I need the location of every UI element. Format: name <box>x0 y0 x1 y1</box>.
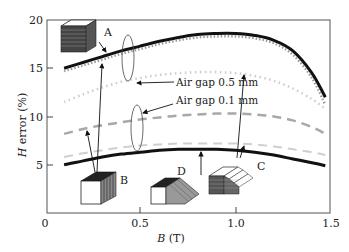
illustration-a <box>61 20 96 52</box>
y-ticks <box>47 68 53 165</box>
xtick-0.5: 0.5 <box>131 217 149 230</box>
ellipse-gap05 <box>122 35 134 81</box>
label-a: A <box>103 26 113 39</box>
xtick-1.0: 1.0 <box>227 217 245 230</box>
xtick-0: 0 <box>42 217 49 230</box>
x-axis-label: B (T) <box>156 232 185 245</box>
illustration-b <box>81 172 116 204</box>
xtick-1.5: 1.5 <box>322 217 340 230</box>
label-gap01: Air gap 0.1 mm <box>175 94 258 106</box>
ytick-10: 10 <box>29 111 43 124</box>
curve-air-gap-0-1-mm-dashed <box>64 113 325 133</box>
ytick-15: 15 <box>29 62 43 75</box>
chart-svg: 20 15 10 5 0 0.5 1.0 1.5 B (T) H error (… <box>0 0 349 252</box>
y-axis-label: H error (%) <box>16 93 29 159</box>
label-b: B <box>120 174 128 187</box>
illustration-c <box>209 167 253 194</box>
chart: 20 15 10 5 0 0.5 1.0 1.5 B (T) H error (… <box>0 0 349 252</box>
x-ticks <box>140 207 236 213</box>
ytick-5: 5 <box>36 159 43 172</box>
illustration-d <box>151 178 199 204</box>
label-c: C <box>257 160 265 173</box>
ytick-20: 20 <box>29 14 43 27</box>
curve-b-c-d-solid <box>64 149 325 165</box>
label-d: D <box>177 165 186 178</box>
ellipse-gap01 <box>131 105 143 151</box>
label-gap05: Air gap 0.5 mm <box>175 76 258 88</box>
